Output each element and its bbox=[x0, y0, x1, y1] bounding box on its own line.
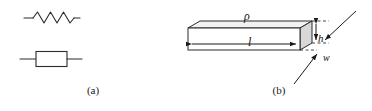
zigzag-resistor-symbol bbox=[24, 12, 80, 23]
block-front-face bbox=[188, 28, 300, 50]
block-top-face bbox=[188, 21, 312, 28]
box-resistor-rect bbox=[36, 52, 67, 67]
figure-container: (a) bbox=[0, 0, 372, 111]
height-label: h bbox=[318, 33, 324, 44]
panel-a-resistor-symbols: (a) bbox=[0, 0, 186, 111]
zigzag-body bbox=[33, 12, 74, 23]
width-label: w bbox=[323, 53, 330, 63]
length-label: l bbox=[248, 36, 251, 48]
width-arrow-upper bbox=[325, 11, 356, 40]
width-arrow-lower bbox=[294, 54, 317, 84]
panel-b-conductor-block: ρ l h w (b) bbox=[186, 0, 372, 111]
resistivity-label: ρ bbox=[244, 10, 250, 22]
panel-b-caption: (b) bbox=[186, 84, 372, 96]
panel-a-caption: (a) bbox=[0, 84, 186, 96]
box-resistor-symbol bbox=[20, 52, 82, 67]
